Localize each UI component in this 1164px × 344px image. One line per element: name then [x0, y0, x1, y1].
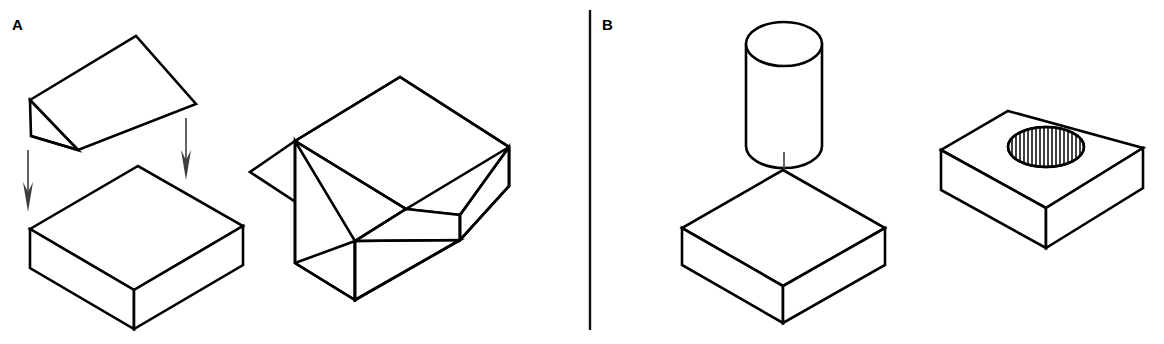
isometric-boolean-operations-svg: A [0, 0, 1164, 344]
panel-a-slab-shape [30, 166, 243, 329]
cylinder-top-ellipse [746, 22, 822, 66]
panel-b-cylinder-shape [746, 22, 822, 168]
panel-label-a: A [12, 16, 23, 33]
panel-a-group: A [12, 16, 509, 329]
panel-a-result-shape [250, 77, 509, 300]
panel-a-wedge-shape [30, 36, 196, 150]
panel-label-b: B [602, 16, 613, 33]
wedge-drop-arrow-right [181, 118, 191, 180]
result-through-hole [1008, 127, 1084, 167]
wedge-drop-arrow-left [23, 150, 33, 212]
panel-b-group: B [602, 16, 1143, 323]
panel-b-slab-shape [682, 170, 885, 323]
technical-illustration-figure: A [0, 0, 1164, 344]
panel-b-result-shape [941, 111, 1143, 248]
